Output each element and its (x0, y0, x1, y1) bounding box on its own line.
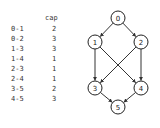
edge-0-1 (100, 23, 113, 37)
node-3: 3 (88, 81, 102, 95)
node-5: 5 (111, 100, 125, 114)
edge-0-2 (123, 23, 136, 37)
svg-text:0: 0 (116, 15, 120, 23)
edge-4-5 (124, 92, 136, 102)
node-1: 1 (88, 35, 102, 49)
svg-text:2: 2 (139, 39, 143, 47)
svg-text:4: 4 (139, 85, 144, 93)
node-4: 4 (134, 81, 148, 95)
svg-text:3: 3 (93, 85, 97, 93)
node-2: 2 (134, 35, 148, 49)
svg-text:1: 1 (93, 39, 97, 47)
graph-nodes: 012345 (88, 11, 148, 114)
node-0: 0 (111, 11, 125, 25)
svg-text:5: 5 (116, 104, 120, 112)
edge-3-5 (100, 92, 112, 102)
flow-network-graph: 012345 (0, 0, 160, 128)
